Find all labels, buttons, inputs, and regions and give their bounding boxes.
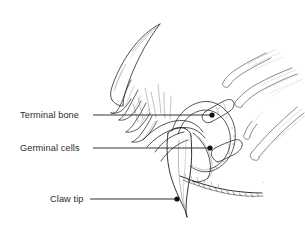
claw-anatomy-illustration: Terminal bone Germinal cells Claw tip [0, 0, 305, 236]
leader-dot-terminal-bone [209, 112, 214, 117]
figure-canvas: Terminal bone Germinal cells Claw tip [0, 0, 305, 236]
label-claw-tip: Claw tip [50, 194, 83, 204]
label-germinal-cells: Germinal cells [20, 143, 80, 153]
label-terminal-bone: Terminal bone [20, 110, 79, 120]
leader-dot-germinal-cells [207, 145, 212, 150]
leader-dot-claw-tip [174, 196, 179, 201]
